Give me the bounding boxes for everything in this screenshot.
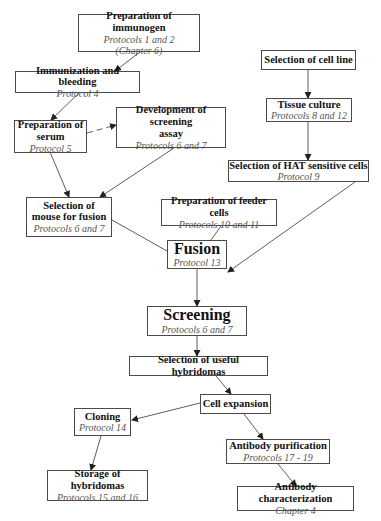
node-title: Tissue culture: [278, 99, 341, 111]
node-preparation-of-immunogen: Preparation of immunogen Protocols 1 and…: [78, 14, 200, 52]
node-protocol: Protocols 6 and 7: [161, 324, 232, 335]
node-title-line-1: Selection of: [43, 200, 95, 212]
node-selection-of-mouse-for-fusion: Selection of mouse for fusion Protocols …: [26, 197, 112, 237]
node-development-of-screening-assay: Development of screening assay Protocols…: [116, 107, 226, 148]
node-title: Preparation of immunogen: [79, 10, 199, 34]
node-title: Screening: [163, 307, 230, 324]
node-title-line-1: Preparation of: [18, 119, 83, 131]
node-selection-of-hat-sensitive-cells: Selection of HAT sensitive cells Protoco…: [228, 160, 369, 182]
node-cell-expansion: Cell expansion: [200, 394, 271, 414]
node-selection-of-cell-line: Selection of cell line: [261, 50, 356, 70]
node-protocol: Protocols 17 - 19: [243, 452, 312, 463]
node-title: Storage of hybridomas: [48, 468, 147, 492]
node-fusion: Fusion Protocol 13: [167, 240, 227, 269]
edge-cloning-to-storage: [91, 436, 101, 470]
edge-serum-to-mouse-fusion: [50, 152, 69, 197]
edge-screening-assay-to-mouse-fusion: [100, 148, 174, 197]
edge-cell-expansion-to-cloning: [132, 403, 200, 420]
node-title: Preparation of feeder cells: [162, 195, 276, 219]
node-title: Antibody characterization: [238, 481, 353, 505]
node-protocol: Protocol 9: [277, 171, 319, 182]
node-title: Fusion: [174, 241, 220, 258]
node-protocol: Protocols 10 and 11: [179, 219, 259, 230]
node-selection-of-useful-hybridomas: Selection of useful hybridomas: [129, 356, 268, 376]
node-cloning: Cloning Protocol 14: [74, 408, 131, 436]
node-antibody-purification: Antibody purification Protocols 17 - 19: [226, 439, 330, 464]
node-protocol: Protocol 4: [56, 88, 98, 99]
node-title: Selection of cell line: [264, 54, 352, 66]
node-antibody-characterization: Antibody characterization Chapter 4: [237, 486, 354, 511]
node-preparation-of-serum: Preparation of serum Protocol 5: [14, 120, 87, 153]
node-title-line-2: assay: [159, 128, 183, 140]
node-title-line-2: mouse for fusion: [32, 211, 106, 223]
node-chapter: (Chapter 6): [116, 45, 163, 56]
node-title-line-2: serum: [37, 131, 65, 143]
node-immunization-and-bleeding: Immunization and bleeding Protocol 4: [15, 71, 140, 93]
node-title: Cloning: [85, 411, 121, 423]
node-title: Antibody purification: [229, 440, 327, 452]
node-protocol: Protocols 6 and 7: [33, 223, 104, 234]
edge-useful-hybridomas-to-cell-expansion: [216, 376, 231, 394]
node-chapter: Chapter 4: [275, 505, 315, 516]
edge-serum-to-screening-assay: [87, 125, 116, 133]
node-title: Immunization and bleeding: [16, 65, 139, 89]
node-protocol: Protocols 8 and 12: [271, 110, 347, 121]
node-title: Cell expansion: [203, 398, 269, 410]
node-title: Selection of useful hybridomas: [130, 354, 267, 378]
node-screening: Screening Protocols 6 and 7: [147, 306, 247, 336]
edge-cell-expansion-to-antibody-purification: [244, 414, 263, 439]
node-title: Selection of HAT sensitive cells: [229, 160, 367, 172]
node-protocol: Protocols 6 and 7: [135, 140, 206, 151]
node-storage-of-hybridomas: Storage of hybridomas Protocols 15 and 1…: [47, 470, 148, 501]
node-preparation-of-feeder-cells: Preparation of feeder cells Protocols 10…: [161, 199, 277, 226]
node-protocol: Protocols 1 and 2: [103, 34, 174, 45]
node-protocol: Protocol 5: [29, 143, 71, 154]
node-protocol: Protocols 15 and 16: [57, 492, 138, 503]
node-protocol: Protocol 13: [173, 257, 220, 268]
node-protocol: Protocol 14: [79, 422, 126, 433]
node-title-line-1: Development of screening: [117, 104, 225, 128]
node-tissue-culture: Tissue culture Protocols 8 and 12: [266, 98, 352, 122]
